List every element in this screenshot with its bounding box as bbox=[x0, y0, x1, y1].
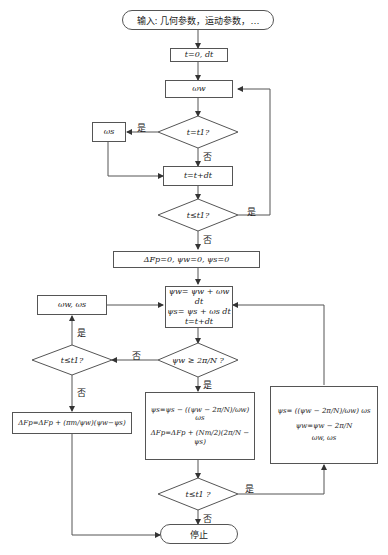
center-line-1: ψs=ψs − ((ψw − 2π/N)/ωw) ωs bbox=[146, 406, 254, 424]
init-time-label: t=0, dt bbox=[185, 50, 213, 60]
step-time-label: t=t+dt bbox=[184, 171, 212, 181]
edge-label-no-psi: 否 bbox=[132, 349, 141, 362]
start-terminal: 输入: 几何参数，运动参数，… bbox=[122, 10, 274, 30]
edge-label-yes-3: 是 bbox=[245, 482, 254, 495]
stop-label: 停止 bbox=[190, 528, 208, 541]
start-label: 输入: 几何参数，运动参数，… bbox=[137, 14, 260, 27]
edge-label-no-left: 否 bbox=[77, 386, 86, 399]
force-update-left-label: ΔFp=ΔFp + (πm/ψw)(ψw−ψs) bbox=[18, 419, 125, 428]
decision-2-label: t≤t1? bbox=[168, 207, 228, 223]
update-omega-box: ωw, ωs bbox=[37, 295, 107, 315]
omega-w-box: ωw bbox=[165, 80, 233, 98]
edge-label-yes-psi: 是 bbox=[203, 378, 212, 391]
right-line-1: ψs= ((ψw − 2π/N)/ωw) ωs bbox=[277, 407, 370, 416]
right-line-2: ψw=ψw − 2π/N bbox=[296, 422, 353, 431]
integrate-line-1: ψw= ψw + ωw dt bbox=[166, 287, 232, 307]
edge-label-yes-left: 是 bbox=[77, 326, 86, 339]
decision-left-label: t≤t1? bbox=[42, 352, 102, 368]
omega-s-label: ωs bbox=[104, 127, 115, 137]
edge-label-no-2: 否 bbox=[203, 233, 212, 246]
center-update-box: ψs=ψs − ((ψw − 2π/N)/ωw) ωs ΔFp=ΔFp + (N… bbox=[145, 392, 255, 460]
decision-3-label: t≤t1 ? bbox=[168, 486, 228, 502]
update-omega-label: ωw, ωs bbox=[58, 300, 86, 310]
integrate-box: ψw= ψw + ωw dt ψs= ψs + ωs dt t=t+dt bbox=[165, 286, 233, 328]
edge-label-yes-2: 是 bbox=[247, 205, 256, 218]
force-update-left-box: ΔFp=ΔFp + (πm/ψw)(ψw−ψs) bbox=[12, 412, 132, 434]
init-forces-label: ΔFp=0, ψw=0, ψs=0 bbox=[144, 255, 230, 265]
integrate-line-3: t=t+dt bbox=[185, 317, 213, 327]
edge-label-no-3: 否 bbox=[203, 512, 212, 525]
integrate-line-2: ψs= ψs + ωs dt bbox=[167, 307, 230, 317]
edge-label-yes-1: 是 bbox=[137, 121, 146, 134]
init-time-box: t=0, dt bbox=[170, 48, 228, 62]
right-update-box: ψs= ((ψw − 2π/N)/ωw) ωs ψw=ψw − 2π/N ωw,… bbox=[270, 386, 378, 464]
right-line-3: ωw, ωs bbox=[312, 434, 337, 443]
stop-terminal: 停止 bbox=[160, 524, 238, 544]
omega-w-label: ωw bbox=[192, 84, 205, 94]
decision-psi-label: ψw ≥ 2π/N ? bbox=[163, 352, 233, 368]
init-forces-box: ΔFp=0, ψw=0, ψs=0 bbox=[113, 251, 260, 268]
omega-s-box: ωs bbox=[92, 122, 126, 142]
center-line-2: ΔFp=ΔFp + (Nm/2)(2π/N − ψs) bbox=[146, 429, 254, 447]
step-time-box: t=t+dt bbox=[163, 166, 233, 186]
edge-label-no-1: 否 bbox=[203, 150, 212, 163]
decision-1-label: t=t1? bbox=[168, 124, 228, 140]
